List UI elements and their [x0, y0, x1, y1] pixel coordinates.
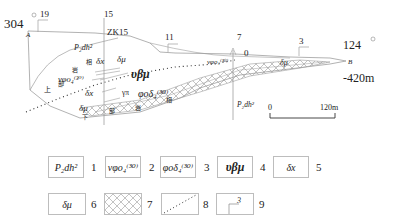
legend-num-3: 3: [204, 161, 210, 173]
crosshatch-swatch-icon: [105, 194, 141, 214]
legend-num-8: 8: [203, 198, 209, 210]
legend-box-9: 3: [216, 193, 254, 215]
legend-box-7: [104, 193, 142, 215]
legend-symbol-4: υβμ: [226, 160, 245, 175]
legend-symbol-3: φoδ₄⁽³⁰⁾: [163, 162, 194, 173]
legend-symbol-1: P₂dh²: [55, 162, 78, 173]
legend-box-6: δμ: [48, 193, 86, 215]
legend-symbol-5: δx: [286, 162, 295, 173]
exploration-line-swatch-icon: 3: [217, 194, 253, 214]
legend-box-1: P₂dh²: [48, 156, 84, 178]
legend-num-7: 7: [147, 198, 153, 210]
legend-symbol-6: δμ: [62, 199, 72, 210]
legend-num-2: 2: [149, 161, 155, 173]
legend-box-2: νφo₄⁽³⁰⁾: [105, 156, 141, 178]
legend-num-4: 4: [260, 161, 266, 173]
legend-num-6: 6: [91, 198, 97, 210]
legend-box-3: φoδ₄⁽³⁰⁾: [160, 156, 196, 178]
legend-box-5: δx: [273, 156, 309, 178]
legend-num-5: 5: [316, 161, 322, 173]
legend-box-8: [161, 193, 199, 215]
legend-box-4: υβμ: [217, 156, 253, 178]
legend: P₂dh² 1 νφo₄⁽³⁰⁾ 2 φoδ₄⁽³⁰⁾ 3 υβμ 4 δx 5…: [0, 0, 394, 224]
legend-symbol-9: 3: [236, 196, 241, 205]
legend-num-1: 1: [91, 161, 97, 173]
legend-symbol-2: νφo₄⁽³⁰⁾: [108, 162, 138, 173]
legend-num-9: 9: [259, 198, 265, 210]
dotted-line-swatch-icon: [162, 194, 198, 214]
